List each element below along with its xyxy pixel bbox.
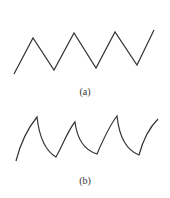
triangle-waveform bbox=[14, 30, 154, 74]
panel-label-a: (a) bbox=[0, 86, 170, 97]
figure-canvas: (a) (b) bbox=[0, 0, 170, 198]
waveform-diagram bbox=[0, 0, 170, 198]
panel-label-b: (b) bbox=[0, 175, 170, 186]
sawtooth-waveform bbox=[16, 116, 158, 161]
